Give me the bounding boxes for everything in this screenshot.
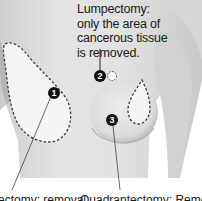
mastectomy-label: ectomy: removal bbox=[0, 193, 86, 201]
lumpectomy-callout: Lumpectomy: only the area of cancerous t… bbox=[77, 2, 187, 60]
quadrantectomy-label: Quadrantectomy: Removal bbox=[80, 193, 202, 201]
callout-line: cancerous tissue bbox=[77, 31, 187, 46]
lumpectomy-region bbox=[108, 72, 117, 81]
marker-2: 2 bbox=[94, 70, 106, 82]
marker-3: 3 bbox=[106, 114, 118, 126]
callout-line: is removed. bbox=[77, 46, 187, 61]
marker-1: 1 bbox=[48, 87, 60, 99]
callout-line: only the area of bbox=[77, 17, 187, 32]
callout-line: Lumpectomy: bbox=[77, 2, 187, 17]
breast-surgery-diagram: Lumpectomy: only the area of cancerous t… bbox=[0, 0, 202, 201]
